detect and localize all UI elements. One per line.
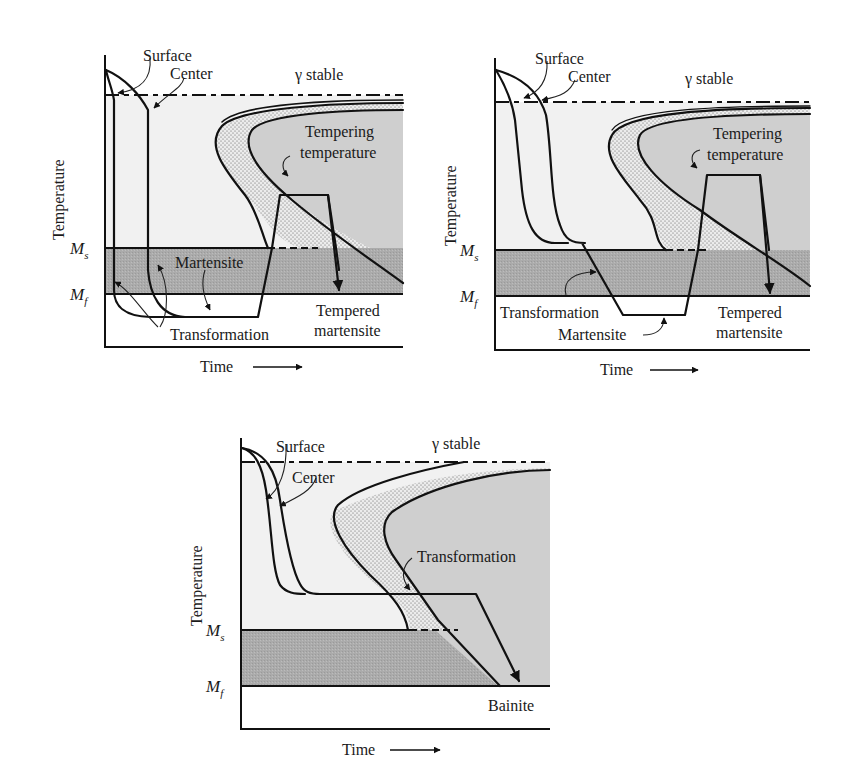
gamma-stable-label: γ stable [684,70,733,88]
tempered-label-1: Tempered [718,304,782,322]
center-label: Center [170,65,213,82]
martensite-band [105,248,403,294]
mf-label: Mf [459,287,479,309]
tempering-label-1: Tempering [305,123,374,141]
transformation-label: Transformation [417,548,516,565]
surface-label: Surface [143,47,192,64]
surface-label: Surface [535,50,584,67]
x-axis-label: Time [600,361,633,378]
tempered-label-2: martensite [314,322,381,339]
bainite-label: Bainite [488,697,534,714]
x-axis-label: Time [200,358,233,375]
martensite-label: Martensite [558,326,626,343]
heat-treatment-diagrams: Surface Center γ stable Tempering temper… [0,0,844,783]
mf-label: Mf [69,285,89,307]
transformation-label: Transformation [170,326,269,343]
y-axis-label: Temperature [188,545,206,626]
tempered-label-2: martensite [716,324,783,341]
gamma-stable-label: γ stable [431,435,480,453]
center-label: Center [568,68,611,85]
tempering-label-2: temperature [707,146,783,164]
mf-label: Mf [205,677,225,699]
martensite-band [495,250,810,296]
surface-label: Surface [276,438,325,455]
panel-martempering: Surface Center γ stable Tempering temper… [442,50,810,378]
y-axis-label: Temperature [50,159,68,240]
ms-label: Ms [459,241,478,263]
center-label: Center [292,469,335,486]
ms-label: Ms [205,621,224,643]
martensite-leader [643,318,664,335]
ms-label: Ms [69,239,88,261]
panel-austempering: Surface Center γ stable Transformation B… [188,435,550,758]
transformation-label: Transformation [500,304,599,321]
panel-martempering-conventional: Surface Center γ stable Tempering temper… [50,47,403,375]
gamma-stable-label: γ stable [294,66,343,84]
y-axis-label: Temperature [442,165,460,246]
tempered-label-1: Tempered [316,302,380,320]
x-axis-label: Time [342,741,375,758]
martensite-label: Martensite [175,254,243,271]
tempering-label-2: temperature [300,144,376,162]
tempering-label-1: Tempering [713,125,782,143]
